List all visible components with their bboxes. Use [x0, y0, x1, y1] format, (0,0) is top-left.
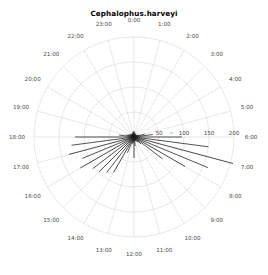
- hour-tick-label: 6:00: [245, 134, 258, 140]
- radial-label-layer: 50100150200: [155, 130, 239, 136]
- grid-spoke: [134, 137, 205, 208]
- hour-tick-label: 21:00: [43, 51, 60, 57]
- grid-spoke: [84, 50, 134, 137]
- grid-spoke: [134, 50, 184, 137]
- hour-tick-label: 16:00: [25, 193, 42, 199]
- hour-tick-label: 19:00: [13, 104, 30, 110]
- hour-tick-label: 23:00: [96, 21, 113, 27]
- grid-spoke: [134, 40, 160, 137]
- grid-spoke: [63, 66, 134, 137]
- grid-spoke: [134, 137, 184, 224]
- hour-tick-label: 20:00: [25, 76, 42, 82]
- grid-spoke: [108, 137, 134, 234]
- grid-spoke: [108, 40, 134, 137]
- hour-tick-label: 22:00: [67, 33, 84, 39]
- hour-tick-label: 17:00: [13, 164, 30, 170]
- grid-spoke: [134, 66, 205, 137]
- radial-tick-label: 150: [204, 130, 215, 136]
- data-ray: [69, 137, 134, 154]
- hour-tick-label: 4:00: [229, 76, 242, 82]
- grid-spoke: [134, 137, 160, 234]
- grid-spoke: [37, 111, 134, 137]
- hour-tick-label: 0:00: [128, 17, 141, 23]
- hour-tick-label: 15:00: [43, 217, 60, 223]
- hour-tick-label: 13:00: [96, 247, 113, 253]
- hour-tick-label: 2:00: [186, 33, 199, 39]
- data-ray: [134, 137, 185, 167]
- grid-spoke: [47, 87, 134, 137]
- hour-tick-label: 18:00: [9, 134, 26, 140]
- polar-plot: 0:001:002:003:004:005:006:007:008:009:00…: [0, 0, 268, 275]
- hour-tick-label: 12:00: [126, 251, 143, 257]
- hour-tick-label: 9:00: [210, 217, 223, 223]
- hour-tick-label: 7:00: [241, 164, 254, 170]
- hour-tick-label: 14:00: [67, 235, 84, 241]
- radial-tick-label: 200: [229, 130, 240, 136]
- hour-tick-label: 1:00: [158, 21, 171, 27]
- polar-chart-page: Cephalophus.harveyi 0:001:002:003:004:00…: [0, 0, 268, 275]
- data-ray: [134, 137, 233, 164]
- hour-tick-label: 5:00: [241, 104, 254, 110]
- hour-tick-label: 11:00: [156, 247, 173, 253]
- radial-tick-label: 100: [179, 130, 190, 136]
- hour-tick-label: 3:00: [210, 51, 223, 57]
- radial-tick-label: 50: [155, 130, 163, 136]
- hour-tick-label: 10:00: [184, 235, 201, 241]
- hour-tick-label: 8:00: [229, 193, 242, 199]
